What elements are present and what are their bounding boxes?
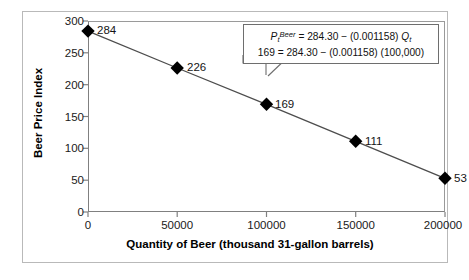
y-tick-200: 200 xyxy=(44,79,84,90)
callout-equation-line-1: PtBeer = 284.30 − (0.001158) Qt xyxy=(248,28,434,46)
x-tick-200000: 200000 xyxy=(398,219,469,231)
callout-equation-mid: = 284.30 − (0.001158) xyxy=(296,31,402,42)
y-axis-title: Beer Price Index xyxy=(32,28,44,198)
callout-p-superscript: Beer xyxy=(280,30,296,39)
y-tick-100: 100 xyxy=(44,143,84,154)
callout-equation-line-2: 169 = 284.30 − (0.001158) (100,000) xyxy=(248,46,434,59)
y-tick-300: 300 xyxy=(44,16,84,27)
point-label-284: 284 xyxy=(97,24,116,36)
x-tick-100000: 100000 xyxy=(222,219,312,231)
y-tick-250: 250 xyxy=(44,47,84,58)
y-tick-0: 0 xyxy=(44,207,84,218)
regression-equation-callout: PtBeer = 284.30 − (0.001158) Qt 169 = 28… xyxy=(243,24,439,64)
y-tick-150: 150 xyxy=(44,111,84,122)
y-tick-50: 50 xyxy=(44,175,84,186)
point-label-111: 111 xyxy=(365,135,382,147)
x-tick-50000: 50000 xyxy=(132,219,222,231)
point-label-226: 226 xyxy=(187,61,206,73)
point-label-53: 53 xyxy=(454,172,467,184)
chart-figure: 300 250 200 150 100 50 0 0 50000 100000 … xyxy=(0,0,469,280)
point-label-169: 169 xyxy=(275,98,294,110)
callout-q-subscript: t xyxy=(409,35,411,44)
x-tick-0: 0 xyxy=(43,219,133,231)
x-axis-title: Quantity of Beer (thousand 31-gallon bar… xyxy=(60,238,440,250)
x-tick-150000: 150000 xyxy=(311,219,401,231)
